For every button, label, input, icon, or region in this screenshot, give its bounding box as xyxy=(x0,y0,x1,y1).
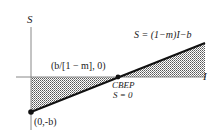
breakeven-label: CBEP xyxy=(112,81,135,90)
line-equation-label: S = (1−m)I−b xyxy=(134,30,191,40)
breakeven-condition-label: S = 0 xyxy=(113,91,133,100)
diagram-canvas xyxy=(0,0,220,130)
x-intercept-label: (b/[1 − m], 0) xyxy=(51,61,106,71)
y-intercept-label: (0,-b) xyxy=(34,117,57,127)
breakeven-point xyxy=(116,75,121,80)
s-axis-label: S xyxy=(27,14,33,25)
y-intercept-point xyxy=(28,109,34,115)
i-axis-label: I xyxy=(203,71,207,82)
